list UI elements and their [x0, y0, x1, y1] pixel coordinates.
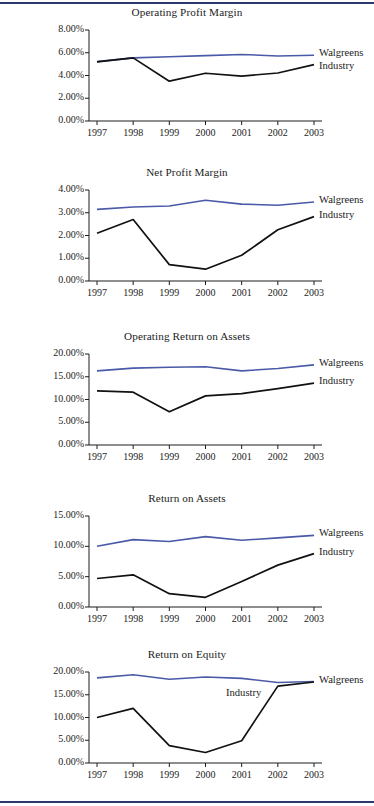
y-tick-label: 20.00% — [18, 665, 84, 676]
chart-figure: Return on Equity0.00%5.00%10.00%15.00%20… — [0, 648, 374, 800]
y-tick-label: 15.00% — [18, 370, 84, 381]
series-label-walgreens: Walgreens — [319, 194, 363, 205]
x-tick-label: 2000 — [188, 287, 224, 298]
y-tick-label: 0.00% — [18, 756, 84, 767]
plot-area: 0.00%5.00%10.00%15.00%20.00%199719981999… — [0, 348, 374, 458]
y-tick-label: 0.00% — [18, 114, 84, 125]
series-label-walgreens: Walgreens — [319, 527, 363, 538]
y-tick-label: 10.00% — [18, 539, 84, 550]
y-tick-label: 5.00% — [18, 570, 84, 581]
x-tick-label: 2002 — [260, 451, 296, 462]
series-label-industry: Industry — [319, 60, 354, 71]
x-tick-label: 1997 — [79, 769, 115, 780]
series-line-industry — [97, 554, 314, 598]
x-tick-label: 2000 — [188, 127, 224, 138]
series-line-walgreens — [97, 535, 314, 546]
y-tick-label: 0.00% — [18, 274, 84, 285]
x-tick-label: 1998 — [115, 287, 151, 298]
x-tick-label: 1999 — [151, 769, 187, 780]
x-tick-label: 2003 — [296, 769, 332, 780]
series-label-industry: Industry — [319, 209, 354, 220]
series-label-industry: Industry — [226, 687, 261, 698]
chart-title: Operating Profit Margin — [0, 6, 374, 18]
x-tick-label: 2001 — [224, 127, 260, 138]
y-tick-label: 15.00% — [18, 688, 84, 699]
y-tick-label: 0.00% — [18, 438, 84, 449]
series-label-walgreens: Walgreens — [319, 357, 363, 368]
series-label-industry: Industry — [319, 546, 354, 557]
x-tick-label: 2003 — [296, 287, 332, 298]
x-tick-label: 2003 — [296, 451, 332, 462]
y-tick-label: 10.00% — [18, 393, 84, 404]
x-tick-label: 1998 — [115, 613, 151, 624]
page-bottom-rule — [0, 801, 374, 803]
x-tick-label: 1999 — [151, 451, 187, 462]
y-tick-label: 2.00% — [18, 229, 84, 240]
y-tick-label: 15.00% — [18, 509, 84, 520]
y-tick-label: 6.00% — [18, 46, 84, 57]
x-tick-label: 2001 — [224, 613, 260, 624]
y-tick-label: 2.00% — [18, 91, 84, 102]
x-tick-label: 1997 — [79, 127, 115, 138]
y-tick-label: 1.00% — [18, 251, 84, 262]
y-tick-label: 20.00% — [18, 347, 84, 358]
series-line-walgreens — [97, 365, 314, 371]
y-tick-label: 0.00% — [18, 600, 84, 611]
chart-figure: Operating Return on Assets0.00%5.00%10.0… — [0, 330, 374, 482]
x-tick-label: 1999 — [151, 613, 187, 624]
plot-area: 0.00%1.00%2.00%3.00%4.00%199719981999200… — [0, 184, 374, 294]
x-tick-label: 2001 — [224, 451, 260, 462]
x-tick-label: 2000 — [188, 769, 224, 780]
x-tick-label: 2002 — [260, 127, 296, 138]
plot-area: 0.00%2.00%4.00%6.00%8.00%199719981999200… — [0, 24, 374, 134]
y-tick-label: 10.00% — [18, 711, 84, 722]
x-tick-label: 1999 — [151, 127, 187, 138]
x-tick-label: 1998 — [115, 451, 151, 462]
series-line-industry — [97, 682, 314, 753]
chart-figure: Return on Assets0.00%5.00%10.00%15.00%19… — [0, 492, 374, 644]
x-tick-label: 2003 — [296, 127, 332, 138]
y-tick-label: 3.00% — [18, 206, 84, 217]
series-label-industry: Industry — [319, 375, 354, 386]
x-tick-label: 2001 — [224, 769, 260, 780]
x-tick-label: 2000 — [188, 613, 224, 624]
y-tick-label: 5.00% — [18, 733, 84, 744]
x-tick-label: 1997 — [79, 451, 115, 462]
chart-title: Net Profit Margin — [0, 166, 374, 178]
chart-title: Return on Assets — [0, 492, 374, 504]
series-line-walgreens — [97, 200, 314, 209]
y-tick-label: 5.00% — [18, 415, 84, 426]
plot-area: 0.00%5.00%10.00%15.00%199719981999200020… — [0, 510, 374, 620]
x-tick-label: 1997 — [79, 613, 115, 624]
x-tick-label: 1997 — [79, 287, 115, 298]
chart-figure: Net Profit Margin0.00%1.00%2.00%3.00%4.0… — [0, 166, 374, 318]
chart-title: Return on Equity — [0, 648, 374, 660]
x-tick-label: 1998 — [115, 127, 151, 138]
series-line-walgreens — [97, 675, 314, 683]
chart-figure: Operating Profit Margin0.00%2.00%4.00%6.… — [0, 6, 374, 158]
series-label-walgreens: Walgreens — [319, 674, 363, 685]
plot-area: 0.00%5.00%10.00%15.00%20.00%199719981999… — [0, 666, 374, 776]
chart-title: Operating Return on Assets — [0, 330, 374, 342]
page-root: { "page": { "rule_color": "#2b3a6b", "ba… — [0, 0, 374, 806]
x-tick-label: 1998 — [115, 769, 151, 780]
series-label-walgreens: Walgreens — [319, 47, 363, 58]
x-tick-label: 2000 — [188, 451, 224, 462]
x-tick-label: 1999 — [151, 287, 187, 298]
series-line-industry — [97, 217, 314, 270]
x-tick-label: 2003 — [296, 613, 332, 624]
x-tick-label: 2002 — [260, 613, 296, 624]
x-tick-label: 2002 — [260, 287, 296, 298]
series-line-industry — [97, 383, 314, 412]
y-tick-label: 4.00% — [18, 183, 84, 194]
y-tick-label: 8.00% — [18, 23, 84, 34]
page-top-rule — [0, 2, 374, 4]
series-line-industry — [97, 58, 314, 81]
x-tick-label: 2002 — [260, 769, 296, 780]
x-tick-label: 2001 — [224, 287, 260, 298]
y-tick-label: 4.00% — [18, 69, 84, 80]
